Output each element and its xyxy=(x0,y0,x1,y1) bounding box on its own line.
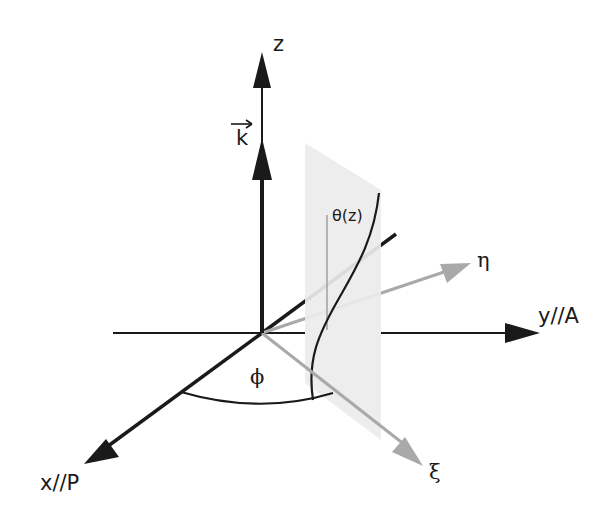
k-vector-arrowhead xyxy=(252,138,272,180)
eta-axis-label: η xyxy=(477,250,490,271)
coordinate-diagram xyxy=(0,0,616,523)
y-axis-label: y//A xyxy=(538,306,579,327)
k-vector-label: k xyxy=(236,128,248,149)
x-axis-label: x//P xyxy=(40,473,79,494)
xi-axis-label: ξ xyxy=(429,462,441,483)
xi-axis-arrowhead xyxy=(392,437,423,466)
y-axis-arrowhead xyxy=(505,323,540,343)
z-axis-arrowhead xyxy=(253,52,271,88)
theta-label: θ(z) xyxy=(332,208,363,224)
z-axis-label: z xyxy=(273,34,284,55)
eta-axis-arrowhead xyxy=(440,263,471,283)
phi-arc xyxy=(181,392,333,404)
phi-angle-label: ϕ xyxy=(250,367,264,388)
